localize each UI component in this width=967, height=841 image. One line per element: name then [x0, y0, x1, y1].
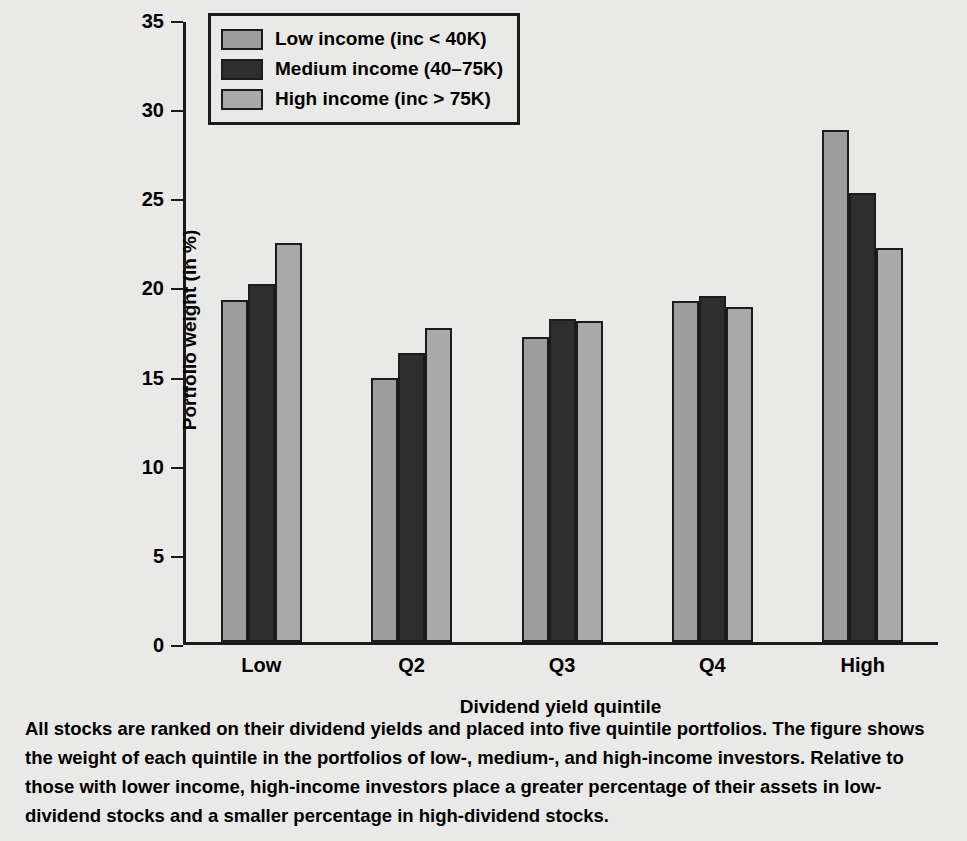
legend-swatch-icon [221, 89, 263, 110]
bar [672, 301, 699, 642]
bar [876, 248, 903, 642]
bar-group [822, 18, 903, 642]
bar [425, 328, 452, 642]
y-axis-tick-label: 15 [142, 367, 164, 390]
y-axis-tick-label: 10 [142, 456, 164, 479]
figure-panel: 05101520253035 Portfolio weight (in %) L… [0, 0, 967, 841]
y-axis-tick-label: 25 [142, 188, 164, 211]
x-axis-tick-label: Low [181, 654, 341, 677]
y-axis-tick-label: 20 [142, 277, 164, 300]
legend-item: High income (inc > 75K) [221, 84, 503, 114]
bar [371, 378, 398, 642]
bar [221, 300, 248, 642]
chart-legend: Low income (inc < 40K)Medium income (40–… [208, 13, 520, 125]
x-axis-tick-label: Q2 [332, 654, 492, 677]
x-axis-tick-label: Q4 [632, 654, 792, 677]
bar [849, 193, 876, 642]
bar [549, 319, 576, 642]
y-axis-tick-label: 0 [153, 634, 164, 657]
figure-caption: All stocks are ranked on their dividend … [25, 714, 940, 830]
y-axis-tick: 35 [171, 21, 183, 23]
bar-group [522, 18, 603, 642]
bar [398, 353, 425, 642]
y-axis-tick: 0 [171, 645, 183, 647]
y-axis-tick-label: 30 [142, 99, 164, 122]
bar-group [672, 18, 753, 642]
legend-item: Low income (inc < 40K) [221, 24, 503, 54]
y-axis-tick: 5 [171, 556, 183, 558]
bar [822, 130, 849, 642]
legend-item-label: Low income (inc < 40K) [275, 28, 487, 50]
bar [248, 284, 275, 642]
legend-item-label: High income (inc > 75K) [275, 88, 491, 110]
legend-item-label: Medium income (40–75K) [275, 58, 503, 80]
bar [576, 321, 603, 642]
x-axis-tick-label: High [783, 654, 943, 677]
y-axis-tick-label: 35 [142, 10, 164, 33]
y-axis-tick: 30 [171, 110, 183, 112]
y-axis-tick-label: 5 [153, 545, 164, 568]
legend-swatch-icon [221, 59, 263, 80]
bar [726, 307, 753, 642]
legend-item: Medium income (40–75K) [221, 54, 503, 84]
legend-swatch-icon [221, 29, 263, 50]
x-axis-tick-label: Q3 [482, 654, 642, 677]
bar [699, 296, 726, 642]
bar [522, 337, 549, 642]
bar [275, 243, 302, 642]
